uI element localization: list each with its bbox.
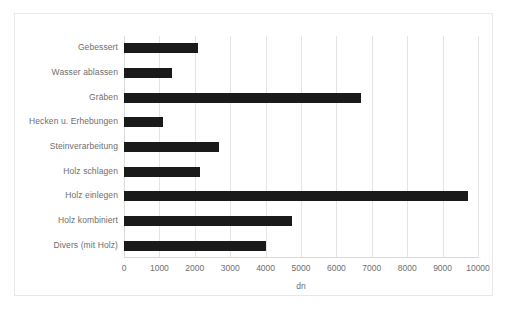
x-tick-label: 3000 [221,263,240,273]
category-label: Steinverarbeitung [0,141,118,151]
bar-row [124,61,478,86]
x-axis-title: dn [124,281,478,291]
category-label: Wasser ablassen [0,67,118,77]
category-label: Holz kombiniert [0,215,118,225]
bar [124,93,361,103]
category-label: Hecken u. Erhebungen [0,116,118,126]
bar [124,117,163,127]
category-label: Divers (mit Holz) [0,240,118,250]
bar-row [124,209,478,234]
bar-row [124,85,478,110]
bar-chart: GebessertWasser ablassenGräbenHecken u. … [0,0,508,317]
bar [124,216,292,226]
x-tick-label: 10000 [466,263,490,273]
category-label: Gebessert [0,42,118,52]
bar [124,191,468,201]
x-tick-label: 1000 [150,263,169,273]
x-tick-label: 0 [122,263,127,273]
x-tick-label: 6000 [327,263,346,273]
gridline [478,36,479,258]
category-label: Holz schlagen [0,166,118,176]
x-tick-label: 2000 [185,263,204,273]
category-label: Holz einlegen [0,190,118,200]
bar [124,68,172,78]
bar [124,167,200,177]
bar-row [124,135,478,160]
x-tick-label: 9000 [433,263,452,273]
category-label: Gräben [0,92,118,102]
x-tick-label: 4000 [256,263,275,273]
bar-row [124,159,478,184]
bar-row [124,110,478,135]
plot-area [124,36,478,258]
bar-row [124,184,478,209]
x-tick-label: 8000 [398,263,417,273]
x-tick-label: 7000 [362,263,381,273]
bar [124,241,266,251]
bar [124,43,198,53]
bar-row [124,36,478,61]
x-tick-label: 5000 [292,263,311,273]
bar-row [124,233,478,258]
bar [124,142,219,152]
